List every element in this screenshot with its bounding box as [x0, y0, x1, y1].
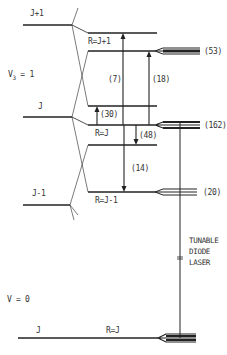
- label-ground-r-j: R=J: [106, 327, 120, 335]
- laser-label-line3: LASER: [189, 259, 210, 267]
- transition-label-30: (30): [100, 111, 118, 119]
- label-r-j-plus-1: R=J+1: [88, 38, 111, 46]
- energy-level-diagram: [0, 0, 227, 355]
- label-v0-state: V = 0: [7, 296, 30, 304]
- label-r-j-minus-1: R=J-1: [95, 197, 118, 205]
- crossing-lines: [70, 25, 88, 220]
- laser-line: [177, 122, 183, 338]
- laser-label-line2: DIODE: [189, 248, 210, 256]
- label-j-plus-1: J+1: [30, 10, 44, 18]
- transition-label-7: (7): [108, 76, 122, 84]
- population-53: (53): [204, 48, 222, 56]
- level-ground: [18, 334, 196, 342]
- label-ground-j: J: [36, 327, 41, 335]
- population-20: (20): [203, 189, 221, 197]
- label-v3-state: V3 = 1: [8, 71, 34, 81]
- label-j-minus-1: J-1: [32, 190, 46, 198]
- transition-label-18: (18): [152, 76, 170, 84]
- transition-label-48: (48): [139, 132, 157, 140]
- population-162: (162): [204, 122, 227, 130]
- label-r-j: R=J: [95, 130, 109, 138]
- level-r-j-plus-1-lower: [88, 48, 200, 54]
- label-j: J: [38, 103, 43, 111]
- laser-label-line1: TUNABLE: [189, 237, 219, 245]
- transition-label-14: (14): [131, 165, 149, 173]
